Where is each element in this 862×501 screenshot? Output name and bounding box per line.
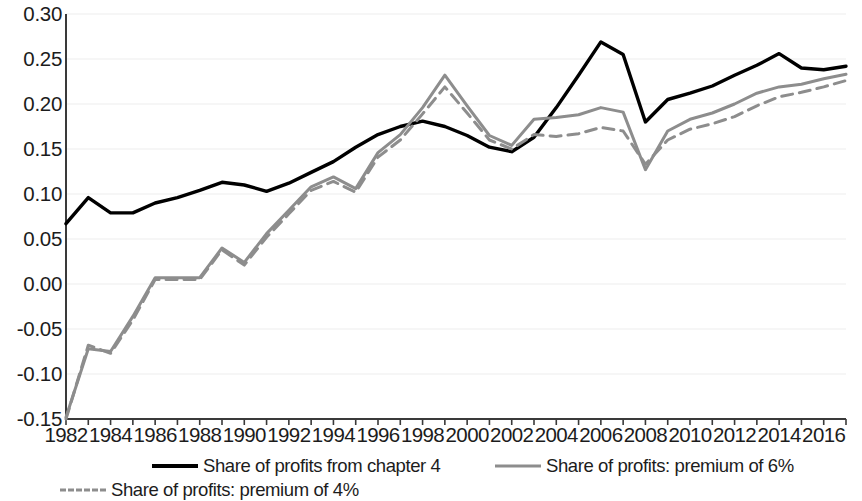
legend-label: Share of profits from chapter 4 <box>203 457 440 476</box>
legend-label: Share of profits: premium of 6% <box>546 457 794 476</box>
dashed-grey-line-icon <box>60 483 106 497</box>
y-tick-label: 0.15 <box>0 139 62 160</box>
solid-grey-line-icon <box>495 459 541 473</box>
chart-legend: Share of profits from chapter 4Share of … <box>0 455 862 501</box>
y-tick-label: 0.10 <box>0 184 62 205</box>
legend-item-3[interactable]: Share of profits: premium of 4% <box>60 481 359 500</box>
y-tick-label: 0.20 <box>0 94 62 115</box>
series-line-1 <box>66 42 846 224</box>
line-chart: -0.15-0.10-0.050.000.050.100.150.200.250… <box>0 0 862 501</box>
y-tick-label: 0.00 <box>0 274 62 295</box>
y-tick-label: -0.05 <box>0 319 62 340</box>
gridlines <box>66 14 846 419</box>
y-tick-label: 0.25 <box>0 49 62 70</box>
solid-black-line-icon <box>152 459 198 473</box>
axes <box>66 14 846 419</box>
y-tick-label: 0.30 <box>0 4 62 25</box>
legend-label: Share of profits: premium of 4% <box>111 481 359 500</box>
legend-item-2[interactable]: Share of profits: premium of 6% <box>495 457 794 476</box>
y-tick-label: -0.10 <box>0 364 62 385</box>
series-lines <box>66 42 846 419</box>
legend-item-1[interactable]: Share of profits from chapter 4 <box>152 457 440 476</box>
y-tick-label: 0.05 <box>0 229 62 250</box>
x-tick-label: 2016 <box>796 425 852 446</box>
series-line-2 <box>66 74 846 417</box>
